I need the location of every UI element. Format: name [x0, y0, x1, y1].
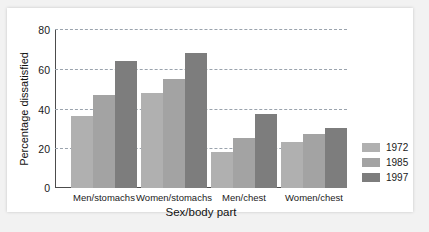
bar	[141, 93, 163, 188]
chart-legend: 197219851997	[362, 140, 408, 185]
y-tick-label-40: 40	[38, 104, 50, 116]
bar	[163, 79, 185, 188]
bar-group	[141, 29, 207, 188]
y-axis-title: Percentage dissatisfied	[16, 29, 32, 188]
bar-group	[281, 29, 347, 188]
legend-item: 1972	[362, 140, 408, 154]
bar	[115, 61, 137, 188]
chart-figure: Percentage dissatisfied 020406080 Men/st…	[0, 0, 429, 232]
y-tick-label-60: 60	[38, 64, 50, 76]
bar	[303, 134, 325, 188]
x-axis-title: Sex/body part	[55, 206, 347, 218]
bar	[93, 95, 115, 188]
legend-swatch	[362, 173, 380, 182]
legend-item: 1997	[362, 170, 408, 184]
bar	[211, 152, 233, 188]
chart-panel: Percentage dissatisfied 020406080 Men/st…	[7, 8, 413, 212]
y-axis-title-text: Percentage dissatisfied	[18, 52, 30, 166]
bar	[255, 114, 277, 188]
bar	[325, 128, 347, 188]
legend-label: 1985	[386, 157, 408, 168]
y-tick-label-20: 20	[38, 143, 50, 155]
legend-swatch	[362, 143, 380, 152]
bar	[185, 53, 207, 188]
category-label: Women/chest	[249, 192, 379, 203]
legend-item: 1985	[362, 155, 408, 169]
bar	[281, 142, 303, 188]
legend-label: 1997	[386, 172, 408, 183]
bar	[71, 116, 93, 188]
bar-group	[71, 29, 137, 188]
legend-swatch	[362, 158, 380, 167]
bar	[233, 138, 255, 188]
legend-label: 1972	[386, 142, 408, 153]
y-tick-label-80: 80	[38, 24, 50, 36]
plot-area: 020406080 Men/stomachsWomen/stomachsMen/…	[55, 29, 326, 188]
bar-group	[211, 29, 277, 188]
